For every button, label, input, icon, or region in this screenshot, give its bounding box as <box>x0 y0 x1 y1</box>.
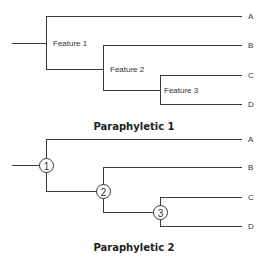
cladogram-2: 1 2 3 A B C D <box>12 135 254 231</box>
taxon-c-label: C <box>248 193 254 202</box>
taxon-a-label: A <box>248 12 254 21</box>
cladogram-1: Feature 1 Feature 2 Feature 3 A B C D <box>12 12 254 109</box>
diagram-1-title: Paraphyletic 1 <box>0 121 268 132</box>
feature-3-label: Feature 3 <box>164 86 199 95</box>
node-1-number: 1 <box>44 161 50 172</box>
node-2-number: 2 <box>101 187 107 198</box>
feature-1-label: Feature 1 <box>53 39 88 48</box>
taxon-b-label: B <box>248 41 253 50</box>
taxon-a-label: A <box>248 135 254 144</box>
taxon-c-label: C <box>248 71 254 80</box>
taxon-d-label: D <box>248 222 254 231</box>
node-3-number: 3 <box>158 208 164 219</box>
feature-2-label: Feature 2 <box>110 65 145 74</box>
diagram-2-title: Paraphyletic 2 <box>0 242 268 253</box>
taxon-d-label: D <box>248 100 254 109</box>
taxon-b-label: B <box>248 163 253 172</box>
